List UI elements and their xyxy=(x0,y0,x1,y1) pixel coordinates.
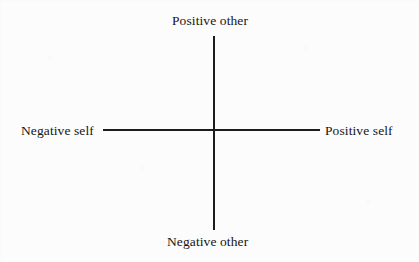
axis-label-negative-self: Negative self xyxy=(21,124,94,138)
horizontal-axis-self xyxy=(103,129,320,131)
vertical-axis-other xyxy=(213,36,215,230)
axis-label-positive-self: Positive self xyxy=(325,124,393,138)
axis-label-negative-other: Negative other xyxy=(167,235,248,249)
axis-label-positive-other: Positive other xyxy=(172,14,248,28)
diagram-canvas: Positive other Negative other Negative s… xyxy=(0,0,419,262)
